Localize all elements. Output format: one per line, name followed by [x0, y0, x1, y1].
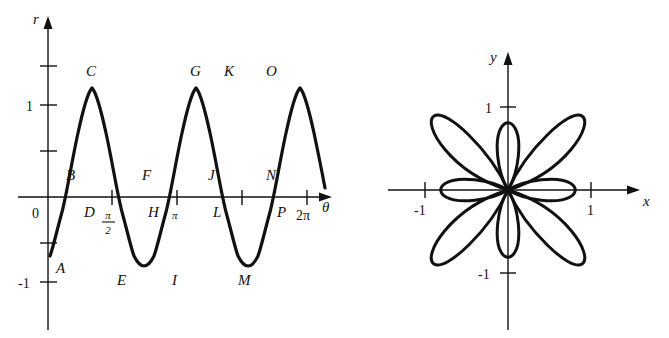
point-label-A: A	[55, 260, 66, 276]
point-label-E: E	[116, 272, 126, 288]
point-label-N: N	[265, 167, 277, 183]
cartesian-plot-panel: r θ 1 -1 0 π 2 π 2π A B C D E F	[0, 0, 340, 338]
theta-axis-label: θ	[322, 199, 330, 215]
polar-x-axis-arrowhead	[627, 186, 640, 195]
point-label-F: F	[141, 167, 152, 183]
cartesian-plot-svg: r θ 1 -1 0 π 2 π 2π A B C D E F	[0, 0, 340, 338]
point-label-G: G	[190, 63, 201, 79]
point-label-H: H	[147, 204, 160, 220]
r-axis-arrowhead	[44, 16, 53, 29]
point-label-D: D	[83, 204, 95, 220]
r-axis-label: r	[33, 11, 39, 27]
theta-tick-label-pi: π	[172, 209, 178, 221]
point-label-M: M	[237, 272, 252, 288]
point-label-L: L	[212, 204, 221, 220]
origin-label: 0	[32, 206, 39, 221]
polar-x-axis-label: x	[642, 193, 650, 209]
polar-x-tick-label-neg1: -1	[414, 203, 426, 218]
polar-y-axis-label: y	[488, 49, 497, 65]
point-label-P: P	[276, 204, 286, 220]
polar-plot-svg: -1 1 1 -1 x y	[340, 0, 669, 338]
point-label-K: K	[223, 63, 235, 79]
r-axis-group	[44, 16, 53, 330]
theta-tick-label-2pi: 2π	[296, 208, 310, 223]
point-label-C: C	[86, 63, 97, 79]
point-label-O: O	[266, 63, 277, 79]
polar-plot-panel: -1 1 1 -1 x y	[340, 0, 669, 338]
theta-tick-label-halfpi: π 2	[102, 209, 115, 236]
polar-y-tick-label-neg1: -1	[478, 267, 490, 282]
point-label-I: I	[171, 272, 178, 288]
halfpi-denominator: 2	[105, 224, 111, 236]
r-tick-label-1: 1	[26, 99, 33, 114]
r-tick-label-neg1: -1	[18, 276, 30, 291]
polar-y-axis-arrowhead	[504, 52, 513, 65]
polar-rose-figure: r θ 1 -1 0 π 2 π 2π A B C D E F	[0, 0, 669, 338]
polar-y-tick-label-1: 1	[485, 101, 492, 116]
point-labels-group: A B C D E F G H I J K L M N O P	[55, 63, 286, 288]
point-label-J: J	[208, 167, 216, 183]
polar-x-tick-label-1: 1	[587, 203, 594, 218]
r-theta-curve	[50, 88, 325, 266]
halfpi-numerator: π	[105, 209, 111, 221]
point-label-B: B	[66, 167, 75, 183]
